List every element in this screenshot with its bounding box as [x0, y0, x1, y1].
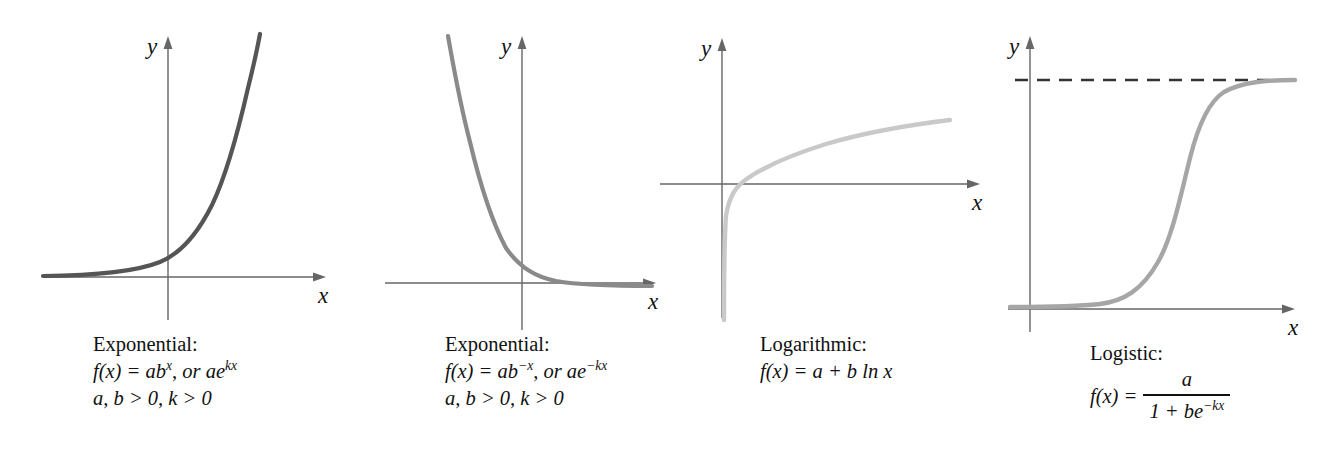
panel-logistic: y x Logistic: f(x) =a1 + be−kx: [990, 0, 1339, 452]
y-axis-arrowhead: [164, 36, 173, 49]
caption-title: Logarithmic:: [760, 331, 892, 358]
caption-equation: f(x) = ab−x, or ae−kx: [445, 358, 607, 385]
fraction: a1 + be−kx: [1143, 366, 1230, 425]
graph-logarithmic: [660, 0, 990, 330]
exponent-2: kx: [225, 358, 237, 373]
caption-equation: f(x) = a + b ln x: [760, 358, 892, 385]
x-axis-arrowhead: [1282, 304, 1295, 313]
caption-equation: f(x) = abx, or aekx: [93, 358, 237, 385]
equation-left-side: f(x) =: [1090, 383, 1143, 410]
caption-constraints: a, b > 0, k > 0: [93, 385, 237, 412]
exponent-1: −kx: [1203, 398, 1224, 413]
caption-exponential-growth: Exponential: f(x) = abx, or aekx a, b > …: [93, 331, 237, 412]
graph-exponential-growth: [0, 0, 330, 330]
x-axis-arrowhead: [313, 272, 326, 281]
exponential-decay-curve: [448, 36, 652, 286]
caption-title: Exponential:: [445, 331, 607, 358]
x-axis-arrowhead: [967, 179, 980, 188]
graph-logistic: [990, 0, 1339, 340]
panel-exponential-decay: y x Exponential: f(x) = ab−x, or ae−kx a…: [330, 0, 660, 452]
caption-title: Logistic:: [1090, 340, 1230, 367]
caption-equation: f(x) =a1 + be−kx: [1090, 367, 1230, 426]
panel-logarithmic: y x Logarithmic: f(x) = a + b ln x: [660, 0, 990, 452]
caption-exponential-decay: Exponential: f(x) = ab−x, or ae−kx a, b …: [445, 331, 607, 412]
exponential-growth-curve: [43, 34, 260, 276]
y-axis-arrowhead: [518, 36, 527, 49]
logarithmic-curve: [724, 120, 950, 320]
y-axis-arrowhead: [1026, 36, 1035, 49]
fraction-numerator: a: [1143, 366, 1230, 394]
caption-constraints: a, b > 0, k > 0: [445, 385, 607, 412]
y-axis-arrowhead: [718, 38, 727, 51]
panel-exponential-growth: y x Exponential: f(x) = abx, or aekx a, …: [0, 0, 330, 452]
caption-logistic: Logistic: f(x) =a1 + be−kx: [1090, 340, 1230, 426]
exponent-1: −x: [518, 358, 533, 373]
caption-logarithmic: Logarithmic: f(x) = a + b ln x: [760, 331, 892, 385]
fraction-denominator: 1 + be−kx: [1143, 396, 1230, 425]
figure-container: y x Exponential: f(x) = abx, or aekx a, …: [0, 0, 1339, 452]
logistic-curve: [1010, 80, 1295, 307]
exponent-2: −kx: [586, 358, 607, 373]
graph-exponential-decay: [330, 0, 660, 340]
caption-title: Exponential:: [93, 331, 237, 358]
